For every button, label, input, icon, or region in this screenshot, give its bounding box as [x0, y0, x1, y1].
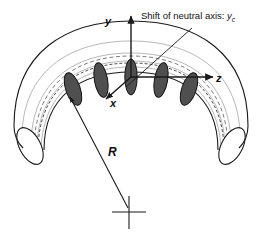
cross-section-5 — [177, 71, 202, 108]
diagram-canvas: Shift of neutral axis: yc y z x R — [0, 0, 264, 233]
z-axis-label: z — [216, 73, 222, 84]
curved-tube-diagram — [0, 0, 264, 233]
radius-line — [70, 97, 128, 208]
cross-section-2 — [91, 62, 110, 99]
radius-label: R — [108, 146, 117, 158]
center-crosshair — [112, 196, 146, 229]
annotation-label: Shift of neutral axis: yc — [141, 11, 235, 23]
cross-section-4 — [151, 62, 170, 99]
y-axis-label: y — [105, 16, 111, 27]
annotation-text: Shift of neutral axis: — [141, 10, 224, 21]
x-axis-label: x — [110, 98, 116, 109]
annotation-subscript: c — [232, 16, 236, 23]
